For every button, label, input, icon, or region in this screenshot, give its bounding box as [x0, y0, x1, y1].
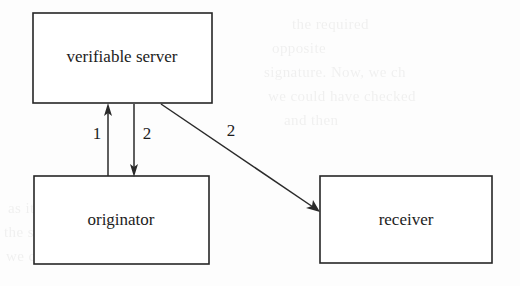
node-receiver[interactable]: receiver [320, 176, 492, 263]
node-originator[interactable]: originator [34, 176, 209, 264]
edge-server-to-receiver-label: 2 [227, 121, 236, 140]
node-verifiable-server-label: verifiable server [67, 47, 178, 66]
node-receiver-label: receiver [379, 210, 434, 229]
diagram-canvas: the requiredoppositesignature. Now, we c… [0, 0, 520, 286]
edge-server-to-originator[interactable]: 2 [130, 104, 151, 177]
edge-originator-to-server[interactable]: 1 [93, 103, 112, 176]
edge-originator-to-server-label: 1 [93, 124, 102, 143]
node-originator-label: originator [87, 210, 154, 229]
edge-server-to-originator-label: 2 [143, 124, 152, 143]
edge-server-to-receiver-arrowhead [306, 200, 320, 212]
protocol-flow-diagram: verifiable server originator receiver 1 … [0, 0, 520, 286]
node-verifiable-server[interactable]: verifiable server [33, 13, 212, 103]
